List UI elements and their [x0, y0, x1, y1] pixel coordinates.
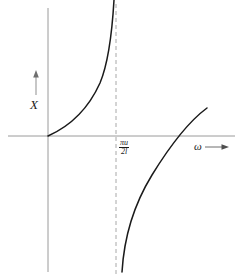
x-axis-label: ω	[194, 141, 202, 152]
curve-right-branch	[122, 108, 207, 272]
asymptote-denominator: 2l	[119, 148, 129, 156]
reactance-figure: X ω πu 2l	[0, 0, 243, 279]
curve-left-branch	[48, 0, 114, 136]
asymptote-label: πu 2l	[119, 139, 129, 157]
x-axis-direction-arrow	[205, 144, 229, 150]
y-axis-direction-arrow	[33, 70, 39, 95]
asymptote-fraction: πu 2l	[119, 139, 129, 157]
y-axis-label: X	[30, 98, 38, 111]
